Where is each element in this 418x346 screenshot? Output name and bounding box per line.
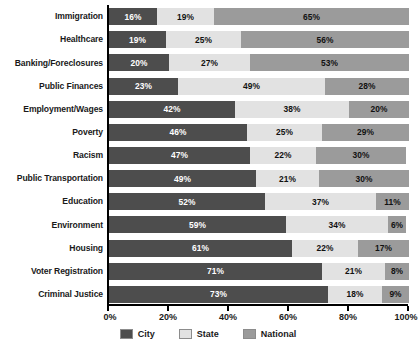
bar-segment-state: 22% — [292, 240, 358, 257]
bar-value-label: 71% — [207, 266, 224, 276]
bar-row: Education52%37%11% — [0, 190, 416, 213]
x-tick-mark — [407, 306, 409, 311]
bar-value-label: 49% — [174, 174, 191, 184]
x-tick-mark — [107, 306, 109, 311]
bar-value-label: 18% — [347, 289, 364, 299]
bar-value-label: 11% — [384, 197, 400, 207]
category-label-criminal-justice: Criminal Justice — [0, 290, 103, 299]
bar-segment-state: 21% — [322, 263, 385, 280]
legend-label: City — [138, 329, 155, 339]
bar-value-label: 8% — [391, 266, 403, 276]
bar-value-label: 30% — [356, 174, 373, 184]
bar-segment-state: 21% — [256, 170, 319, 187]
stacked-bar: 42%38%20% — [109, 101, 409, 118]
stacked-bar: 71%21%8% — [109, 263, 409, 280]
bar-value-label: 38% — [284, 104, 301, 114]
stacked-bar: 47%22%30% — [109, 147, 409, 164]
stacked-bar: 46%25%29% — [109, 124, 409, 141]
bar-segment-national: 53% — [250, 54, 409, 71]
bar-value-label: 22% — [317, 243, 334, 253]
bar-value-label: 22% — [275, 150, 292, 160]
chart-legend: CityStateNational — [0, 329, 416, 339]
bar-value-label: 19% — [177, 12, 194, 22]
bar-value-label: 65% — [303, 12, 320, 22]
bar-segment-city: 59% — [109, 216, 286, 233]
legend-swatch-icon — [120, 329, 133, 339]
legend-item-city[interactable]: City — [120, 329, 155, 339]
bar-value-label: 17% — [375, 243, 392, 253]
bar-row: Public Transportation49%21%30% — [0, 167, 416, 190]
stacked-bar: 20%27%53% — [109, 54, 409, 71]
bar-segment-national: 9% — [382, 286, 409, 303]
bar-segment-city: 19% — [109, 31, 166, 48]
bar-segment-national: 65% — [214, 8, 409, 25]
bar-row: Housing61%22%17% — [0, 237, 416, 260]
bar-row: Voter Registration71%21%8% — [0, 260, 416, 283]
stacked-bar: 73%18%9% — [109, 286, 409, 303]
bar-row: Poverty46%25%29% — [0, 121, 416, 144]
x-tick-label: 100% — [394, 312, 417, 322]
bar-value-label: 16% — [125, 12, 142, 22]
bar-segment-national: 6% — [388, 216, 406, 233]
category-label-racism: Racism — [0, 151, 103, 160]
bar-value-label: 21% — [279, 174, 296, 184]
bar-segment-city: 16% — [109, 8, 157, 25]
bar-value-label: 29% — [357, 127, 374, 137]
legend-swatch-icon — [243, 329, 256, 339]
bar-segment-city: 61% — [109, 240, 292, 257]
x-tick-label: 60% — [279, 312, 297, 322]
category-label-environment: Environment — [0, 221, 103, 230]
bar-segment-state: 25% — [166, 31, 241, 48]
bar-segment-national: 8% — [385, 263, 409, 280]
x-tick-mark — [287, 306, 289, 311]
bar-row: Employment/Wages42%38%20% — [0, 98, 416, 121]
stacked-bar: 52%37%11% — [109, 193, 409, 210]
category-label-housing: Housing — [0, 244, 103, 253]
bar-value-label: 59% — [189, 220, 206, 230]
x-tick-mark — [167, 306, 169, 311]
legend-label: State — [197, 329, 219, 339]
x-tick-label: 80% — [339, 312, 357, 322]
legend-item-national[interactable]: National — [243, 329, 297, 339]
bar-segment-state: 25% — [247, 124, 322, 141]
bar-segment-national: 28% — [325, 78, 409, 95]
bar-value-label: 30% — [353, 150, 370, 160]
stacked-bar: 16%19%65% — [109, 8, 409, 25]
bar-value-label: 52% — [179, 197, 196, 207]
bar-value-label: 42% — [164, 104, 181, 114]
bar-segment-city: 71% — [109, 263, 322, 280]
bar-segment-state: 34% — [286, 216, 388, 233]
bar-value-label: 6% — [391, 220, 403, 230]
stacked-bar: 23%49%28% — [109, 78, 409, 95]
bar-segment-national: 11% — [376, 193, 409, 210]
bar-segment-city: 23% — [109, 78, 178, 95]
x-axis: 0%20%40%60%80%100% — [108, 306, 408, 328]
bar-segment-national: 30% — [316, 147, 406, 164]
category-label-public-transportation: Public Transportation — [0, 174, 103, 183]
bar-value-label: 47% — [171, 150, 188, 160]
bar-segment-city: 20% — [109, 54, 169, 71]
x-tick-mark — [347, 306, 349, 311]
bar-segment-state: 19% — [157, 8, 214, 25]
bar-segment-city: 52% — [109, 193, 265, 210]
bar-value-label: 27% — [201, 58, 218, 68]
bar-row: Public Finances23%49%28% — [0, 74, 416, 97]
bar-value-label: 25% — [195, 35, 212, 45]
bar-row: Healthcare19%25%56% — [0, 28, 416, 51]
bar-segment-state: 22% — [250, 147, 316, 164]
bar-value-label: 53% — [321, 58, 338, 68]
bar-value-label: 25% — [276, 127, 293, 137]
stacked-bar: 61%22%17% — [109, 240, 409, 257]
bar-value-label: 28% — [359, 81, 376, 91]
stacked-bar: 19%25%56% — [109, 31, 409, 48]
legend-item-state[interactable]: State — [179, 329, 219, 339]
legend-swatch-icon — [179, 329, 192, 339]
bar-value-label: 61% — [192, 243, 209, 253]
bar-value-label: 37% — [312, 197, 329, 207]
bar-segment-state: 37% — [265, 193, 376, 210]
x-tick-label: 0% — [103, 312, 116, 322]
legend-label: National — [261, 329, 297, 339]
stacked-bar: 59%34%6% — [109, 216, 409, 233]
bar-value-label: 56% — [317, 35, 334, 45]
